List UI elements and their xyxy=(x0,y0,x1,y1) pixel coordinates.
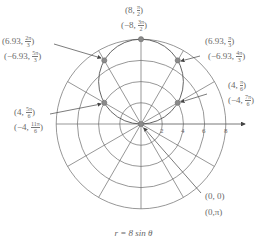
label-0-0: (0, 0) xyxy=(205,192,225,201)
label-4-pi-over-6: (4, π6) xyxy=(228,79,246,92)
label-6.93-2pi-over-3: (6.93, 2π3) xyxy=(2,35,34,48)
label-8-pi-over-2: (8, π2) xyxy=(125,4,143,17)
chart-caption: r = 8 sin θ xyxy=(0,228,267,238)
label-4-5pi-over-6: (4, 5π6) xyxy=(14,106,35,119)
tick-label-8: 8 xyxy=(224,128,228,135)
label-neg4-7pi-over-6: (−4, 7π6) xyxy=(228,94,254,107)
label-0-pi: (0,π) xyxy=(205,208,222,217)
label-neg8-3pi-over-2: (−8, 3π2) xyxy=(121,19,147,32)
label-neg6.93-4pi-over-3: (−6.93, 4π3) xyxy=(208,50,245,63)
label-neg6.93-5pi-over-3: (−6.93, 5π3) xyxy=(4,50,41,63)
label-neg4-11pi-over-6: (−4, 11π6) xyxy=(14,121,43,134)
tick-label-2: 2 xyxy=(160,128,164,135)
tick-label-6: 6 xyxy=(202,128,206,135)
callout-arrows xyxy=(50,44,207,193)
label-6.93-pi-over-3: (6.93, π3) xyxy=(205,35,234,48)
tick-label-4: 4 xyxy=(181,128,185,135)
